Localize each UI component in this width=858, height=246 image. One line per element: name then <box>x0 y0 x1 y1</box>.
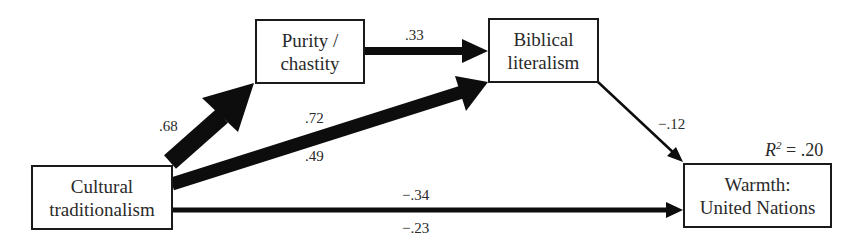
node-label-line2: United Nations <box>700 196 816 219</box>
arrow-cultural-to-purity <box>170 83 254 162</box>
coef-cultural-warmth-bottom: −.23 <box>402 220 429 237</box>
r-squared-label: R2 = .20 <box>765 139 823 161</box>
coef-cultural-warmth-top: −.34 <box>402 187 429 204</box>
node-purity-chastity: Purity / chastity <box>255 19 365 84</box>
node-label-line2: literalism <box>508 51 580 74</box>
node-label-line2: chastity <box>280 52 339 75</box>
node-label-line1: Warmth: <box>724 173 790 196</box>
node-label-line2: traditionalism <box>49 198 155 221</box>
arrow-purity-to-biblical <box>364 39 488 63</box>
node-label-line1: Cultural <box>71 175 133 198</box>
coef-cultural-biblical-bottom: .49 <box>305 148 324 165</box>
node-label-line1: Biblical <box>513 28 573 51</box>
arrow-cultural-to-warmth <box>172 202 683 218</box>
coef-cultural-biblical-top: .72 <box>305 110 324 127</box>
node-cultural-traditionalism: Cultural traditionalism <box>31 165 173 230</box>
coef-cultural-purity: .68 <box>159 118 178 135</box>
node-biblical-literalism: Biblical literalism <box>488 18 599 83</box>
coef-purity-biblical: .33 <box>405 27 424 44</box>
r-squared-value: = .20 <box>786 140 823 160</box>
node-label-line1: Purity / <box>282 29 338 52</box>
coef-biblical-warmth: −.12 <box>658 116 685 133</box>
node-warmth-united-nations: Warmth: United Nations <box>683 163 832 228</box>
